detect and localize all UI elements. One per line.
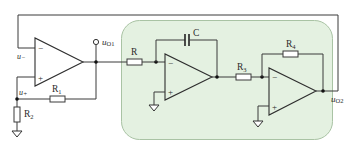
label-r: R: [131, 47, 138, 57]
resistor-r2: [14, 107, 20, 122]
opamp-3-plus-sign: +: [272, 102, 277, 112]
node-opamp2-out: [215, 75, 219, 79]
node-opamp1-out: [94, 60, 98, 64]
opamp-2-plus-sign: +: [168, 87, 173, 97]
label-r1: R1: [52, 84, 62, 95]
resistor-r: [127, 59, 142, 65]
node-u-plus: [15, 97, 19, 101]
opamp-1-minus-sign: −: [38, 43, 43, 53]
wire-r1-right: [65, 62, 96, 99]
ground-icon-1: [12, 131, 22, 137]
opamp-3-minus-sign: −: [272, 72, 277, 82]
label-u-plus: u+: [19, 88, 27, 97]
resistor-r1: [50, 96, 65, 102]
node-uo2: [321, 89, 325, 93]
resistor-r3: [236, 74, 251, 80]
label-r2: R2: [24, 109, 34, 120]
terminal-uo1: [93, 39, 98, 44]
label-u-minus: u−: [17, 52, 25, 61]
opamp-1-plus-sign: +: [38, 73, 43, 83]
opamp-2-minus-sign: −: [168, 58, 173, 68]
highlight-panel: [122, 21, 333, 140]
opamp-1: − +: [35, 38, 83, 86]
label-uo2: uO2: [331, 94, 343, 104]
circuit-diagram: − + u− R1 u+ R2 uO1 R C − +: [0, 0, 356, 153]
label-uo1: uO1: [102, 37, 114, 47]
resistor-r4: [283, 51, 298, 57]
label-c: C: [193, 28, 199, 38]
